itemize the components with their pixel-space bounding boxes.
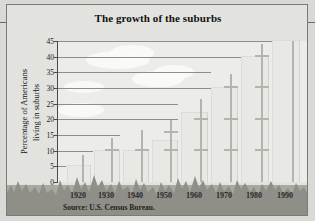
antenna-crossbar: [194, 149, 208, 151]
y-tick-label: 30: [38, 84, 54, 93]
gridline-15: [58, 135, 120, 136]
y-tick-label: 35: [38, 68, 54, 77]
antenna-crossbar: [194, 118, 208, 120]
y-tick: [54, 151, 58, 152]
antenna-crossbar: [255, 149, 269, 151]
x-tick-label-1920: 1920: [70, 191, 86, 200]
y-tick: [54, 135, 58, 136]
gridline-30: [58, 88, 211, 89]
gridline-40: [58, 57, 244, 58]
antenna-1980: [261, 44, 263, 182]
antenna-crossbar: [135, 149, 149, 151]
y-axis-line: [57, 41, 58, 182]
antenna-1970: [230, 74, 232, 182]
y-tick: [54, 88, 58, 89]
bar-1990: [272, 40, 300, 182]
antenna-1990: [292, 41, 294, 182]
y-tick: [54, 119, 58, 120]
y-tick: [54, 72, 58, 73]
plot-area: 45 40 35 30 25 20 15 10 5 0: [57, 41, 307, 182]
x-tick-label-1930: 1930: [98, 191, 114, 200]
x-tick-label-1950: 1950: [156, 191, 172, 200]
y-tick: [54, 104, 58, 105]
x-tick-label-1970: 1970: [216, 191, 232, 200]
figure-container: The growth of the suburbs Percentage of …: [0, 0, 315, 221]
y-tick-label: 10: [38, 146, 54, 155]
antenna-crossbar: [255, 86, 269, 88]
antenna-crossbar: [224, 86, 238, 88]
chart-title: The growth of the suburbs: [7, 12, 309, 24]
antenna-crossbar: [224, 118, 238, 120]
y-tick-label: 40: [38, 52, 54, 61]
x-tick-label-1960: 1960: [186, 191, 202, 200]
cloud-shape: [64, 81, 104, 93]
gridline-10: [58, 151, 93, 152]
antenna-crossbar: [224, 149, 238, 151]
gridline-35: [58, 72, 211, 73]
antenna-crossbar: [255, 118, 269, 120]
y-tick-label: 45: [38, 37, 54, 46]
antenna-crossbar: [105, 149, 119, 151]
gridline-20: [58, 119, 178, 120]
chart-frame: The growth of the suburbs Percentage of …: [6, 4, 308, 216]
y-tick: [54, 166, 58, 167]
antenna-crossbar: [164, 131, 178, 133]
cloud-shape: [58, 103, 104, 117]
gridline-5: [58, 166, 66, 167]
bar-1970: [211, 87, 238, 182]
gridline-45: [58, 41, 273, 42]
x-tick-label-1980: 1980: [246, 191, 262, 200]
y-tick-label: 15: [38, 131, 54, 140]
y-tick-label: 25: [38, 99, 54, 108]
antenna-crossbar: [164, 149, 178, 151]
y-axis-title-line1: Percentage of Americans: [19, 41, 29, 183]
x-tick-label-1940: 1940: [127, 191, 143, 200]
gridline-25: [58, 104, 178, 105]
y-tick-label: 5: [38, 162, 54, 171]
antenna-1960: [200, 99, 202, 182]
cloud-shape: [110, 45, 154, 61]
y-tick: [54, 57, 58, 58]
antenna-crossbar: [255, 55, 269, 57]
x-tick-label-1990: 1990: [277, 191, 293, 200]
y-tick: [54, 41, 58, 42]
source-note: Source: U.S. Census Bureau.: [63, 203, 155, 212]
y-tick-label: 20: [38, 115, 54, 124]
